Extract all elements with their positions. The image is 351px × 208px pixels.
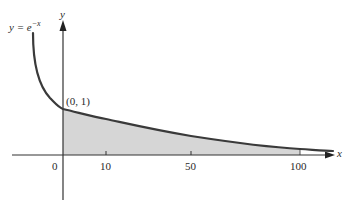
x-tick-label-100: 100 [290, 161, 307, 172]
x-axis-label: x [337, 148, 342, 159]
function-label-base: y = e [9, 21, 32, 33]
x-tick-label-10: 10 [100, 161, 111, 172]
function-label-exponent: −x [32, 19, 41, 28]
x-tick-label-50: 50 [185, 161, 196, 172]
x-axis-arrow-icon [325, 152, 335, 159]
function-label: y = e−x [9, 20, 41, 33]
x-tick-label-0: 0 [52, 161, 58, 172]
y-axis-arrow-icon [60, 20, 67, 31]
shaded-area [63, 109, 300, 155]
point-annotation: (0, 1) [66, 96, 90, 107]
y-axis-label: y [60, 9, 65, 20]
chart-canvas [0, 0, 351, 208]
